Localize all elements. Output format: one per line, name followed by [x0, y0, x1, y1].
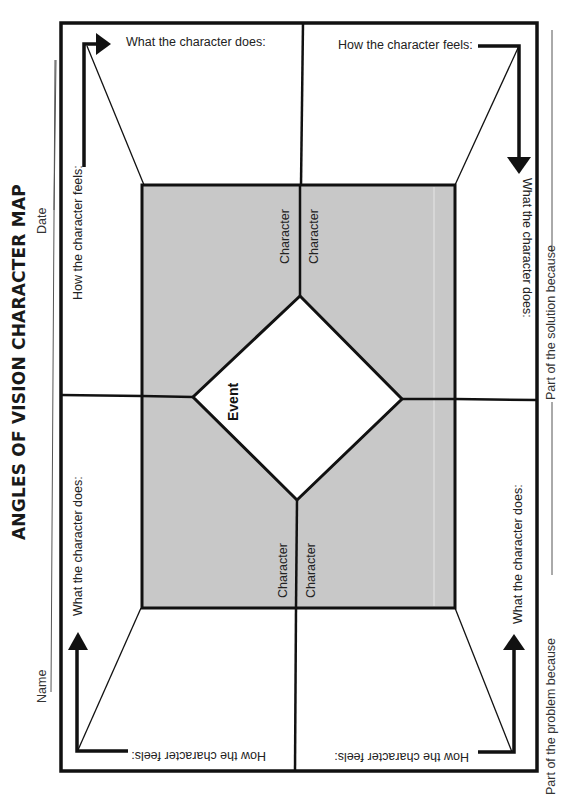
date-field-label: Date: [35, 208, 49, 234]
top-right-feels-label: How the character feels:: [338, 38, 473, 52]
divider-left: [61, 395, 142, 396]
character-label-top-left: Character: [278, 209, 292, 264]
character-label-top-right: Character: [307, 209, 321, 264]
character-map-worksheet: ANGLES OF VISION CHARACTER MAP Name Date…: [0, 0, 568, 802]
bottom-right-does-label: What the character does:: [511, 484, 525, 624]
bottom-left-writing-area[interactable]: [110, 620, 285, 730]
top-right-writing-area[interactable]: [310, 60, 490, 170]
bottom-right-writing-area[interactable]: [305, 620, 485, 730]
worksheet-title: ANGLES OF VISION CHARACTER MAP: [9, 184, 29, 540]
name-input[interactable]: [38, 262, 54, 682]
bottom-left-does-label: What the character does:: [71, 476, 85, 616]
top-left-does-label: What the character does:: [126, 35, 266, 49]
bottom-right-feels-label: How the character feels:: [334, 750, 469, 764]
top-left-feels-label: How the character feels:: [71, 165, 85, 300]
character-label-bottom-right: Character: [304, 543, 318, 598]
top-right-does-label: What the character does:: [520, 178, 534, 318]
divider-center-left: [142, 396, 193, 397]
event-label: Event: [225, 383, 241, 421]
event-writing-area[interactable]: [240, 350, 360, 445]
solution-field-label: Part of the solution because: [544, 245, 558, 400]
date-input[interactable]: [38, 60, 54, 210]
divider-bottom: [295, 608, 296, 771]
problem-input[interactable]: [546, 402, 560, 582]
problem-field-label: Part of the problem because: [544, 638, 558, 795]
character-label-bottom-left: Character: [276, 543, 290, 598]
divider-right: [455, 399, 537, 400]
divider-center-bottom: [296, 500, 297, 608]
solution-input[interactable]: [546, 30, 560, 255]
bottom-left-feels-label: How the character feels:: [131, 749, 266, 763]
top-left-writing-area[interactable]: [110, 60, 290, 170]
